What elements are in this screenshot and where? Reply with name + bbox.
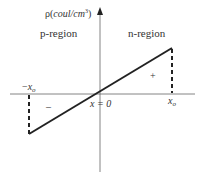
charge-density-line <box>29 48 172 134</box>
n-region-label: n-region <box>128 27 166 39</box>
positive-charge-sign: + <box>150 70 156 81</box>
p-region-label: p-region <box>40 27 78 39</box>
pos-edge-label: xo <box>167 95 176 108</box>
origin-label: x = 0 <box>89 98 111 109</box>
negative-charge-sign: – <box>45 101 52 112</box>
y-axis-label: ρ(coul/cm3) <box>45 8 91 20</box>
neg-edge-label: −xo <box>22 81 36 94</box>
charge-density-diagram: ρ(coul/cm3) p-region n-region + – x = 0 … <box>0 0 199 180</box>
y-axis-arrow-icon <box>97 7 103 15</box>
